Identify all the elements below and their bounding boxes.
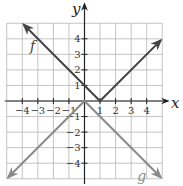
x-tick-label: 4 [144,105,150,116]
y-tick-label: 2 [74,64,80,75]
y-tick-label: −3 [66,142,81,153]
x-tick-label: −4 [15,105,30,116]
series-f-label: f [29,38,38,54]
series-g-label: g [137,168,146,184]
x-tick-label: 3 [128,105,134,116]
series-f-line [24,25,161,101]
y-axis-label: y [71,0,81,18]
y-tick-label: 4 [74,33,80,44]
x-tick-label: −2 [46,105,61,116]
x-tick-label: −3 [30,105,45,116]
function-graph: −4−3−2−112344321−1−2−3−4 fg x y [0,0,183,186]
y-tick-label: 3 [74,49,80,60]
x-axis-label: x [171,94,180,112]
x-tick-label: 2 [112,105,118,116]
y-tick-label: −2 [66,127,81,138]
y-tick-label: −4 [66,158,81,169]
